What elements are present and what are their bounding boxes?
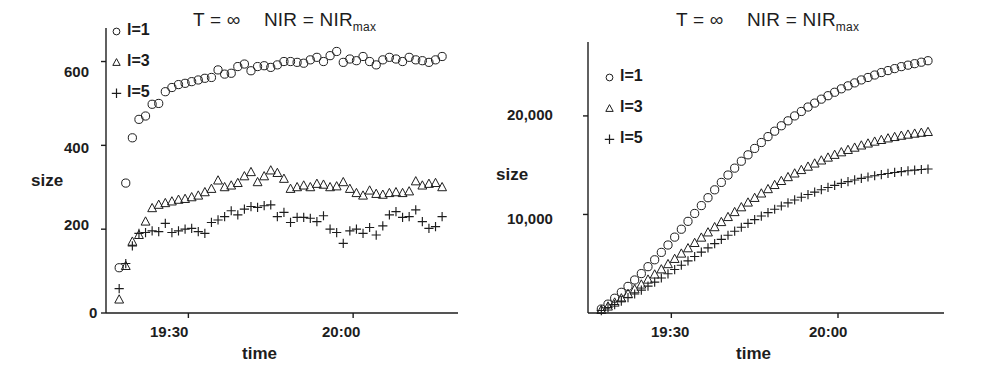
plus-data-point: [703, 243, 712, 252]
circle-data-point: [333, 47, 341, 55]
plus-data-point: [115, 284, 124, 293]
plus-data-point: [372, 230, 381, 239]
circle-data-point: [757, 138, 765, 146]
series-l1: [115, 47, 446, 271]
plus-data-point: [923, 164, 932, 173]
plus-data-point: [273, 212, 282, 221]
triangle-data-point: [339, 177, 348, 185]
circle-data-point: [704, 194, 712, 202]
plus-data-point: [837, 179, 846, 188]
plus-data-point: [279, 208, 288, 217]
circle-data-point: [684, 217, 692, 225]
triangle-data-point: [207, 184, 216, 192]
plus-data-point: [180, 225, 189, 234]
plus-data-point: [817, 185, 826, 194]
plot-panel-left: T = ∞ NIR = NIRmax l=1 l=3 l=5 600 400 2…: [0, 0, 496, 367]
circle-data-point: [644, 263, 652, 271]
plus-data-point: [843, 177, 852, 186]
series-l3: [597, 127, 933, 313]
plus-data-point: [319, 211, 328, 220]
plus-data-point: [418, 217, 427, 226]
plus-data-point: [260, 201, 269, 210]
series-l1: [597, 57, 932, 314]
plus-data-point: [253, 203, 262, 212]
plus-data-point: [345, 226, 354, 235]
circle-data-point: [438, 52, 446, 60]
plus-data-point: [730, 227, 739, 236]
series-l5: [597, 164, 933, 315]
plus-data-point: [299, 213, 308, 222]
plus-data-point: [266, 200, 275, 209]
plus-data-point: [710, 239, 719, 248]
plus-data-point: [877, 170, 886, 179]
plus-data-point: [365, 223, 374, 232]
plus-data-point: [650, 278, 659, 287]
circle-data-point: [731, 164, 739, 172]
plus-data-point: [850, 175, 859, 184]
circle-data-point: [737, 157, 745, 165]
plus-data-point: [378, 221, 387, 230]
triangle-data-point: [405, 187, 414, 195]
circle-data-point: [617, 288, 625, 296]
circle-data-point: [691, 209, 699, 217]
circle-data-point: [751, 144, 759, 152]
plus-data-point: [148, 226, 157, 235]
triangle-data-point: [299, 181, 308, 189]
series-l3: [115, 166, 447, 303]
plus-data-point: [897, 167, 906, 176]
plus-data-point: [286, 218, 295, 227]
plus-data-point: [154, 227, 163, 236]
plus-data-point: [438, 212, 447, 221]
circle-data-point: [637, 269, 645, 277]
plus-data-point: [717, 235, 726, 244]
circle-data-point: [141, 112, 149, 120]
plus-data-point: [431, 222, 440, 231]
triangle-data-point: [266, 166, 275, 174]
plus-data-point: [903, 166, 912, 175]
circle-data-point: [744, 151, 752, 159]
plus-data-point: [870, 171, 879, 180]
circle-data-point: [319, 57, 327, 65]
triangle-data-point: [214, 176, 223, 184]
circle-data-point: [122, 179, 130, 187]
triangle-data-point: [247, 167, 256, 175]
plus-data-point: [657, 273, 666, 282]
plus-data-point: [246, 202, 255, 211]
plus-data-point: [910, 166, 919, 175]
plot-area-right: [496, 0, 992, 367]
plus-data-point: [398, 213, 407, 222]
plus-data-point: [167, 228, 176, 237]
plus-data-point: [857, 174, 866, 183]
circle-data-point: [664, 241, 672, 249]
plus-data-point: [358, 229, 367, 238]
figure-container: T = ∞ NIR = NIRmax l=1 l=3 l=5 600 400 2…: [0, 0, 992, 367]
plot-panel-right: T = ∞ NIR = NIRmax l=1 l=3 l=5 20,000 10…: [496, 0, 992, 367]
plus-data-point: [883, 169, 892, 178]
plus-data-point: [697, 248, 706, 257]
circle-data-point: [711, 186, 719, 194]
circle-data-point: [677, 225, 685, 233]
circle-data-point: [697, 201, 705, 209]
plus-data-point: [810, 187, 819, 196]
triangle-data-point: [365, 186, 374, 194]
plus-data-point: [823, 183, 832, 192]
triangle-data-point: [115, 295, 124, 303]
plus-data-point: [174, 226, 183, 235]
plus-data-point: [339, 239, 348, 248]
plus-data-point: [424, 224, 433, 233]
plus-data-point: [207, 218, 216, 227]
plot-area-left: [0, 0, 496, 367]
series-l5: [115, 200, 447, 293]
plus-data-point: [411, 205, 420, 214]
plus-data-point: [737, 223, 746, 232]
plus-data-point: [161, 219, 170, 228]
plus-data-point: [690, 252, 699, 261]
plus-data-point: [227, 206, 236, 215]
plus-data-point: [723, 231, 732, 240]
triangle-data-point: [141, 217, 150, 225]
circle-data-point: [651, 256, 659, 264]
plus-data-point: [240, 204, 249, 213]
plus-data-point: [200, 229, 209, 238]
plus-data-point: [352, 225, 361, 234]
plus-data-point: [863, 172, 872, 181]
